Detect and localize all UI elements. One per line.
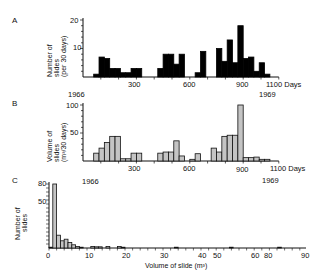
histogram-bar — [233, 135, 238, 161]
b-xtick-1100: 1100 Days — [270, 164, 306, 173]
histogram-bar — [104, 143, 109, 161]
histogram-bar — [195, 73, 200, 77]
histogram-bar — [249, 158, 254, 161]
c-xtick-40: 40 — [198, 251, 206, 260]
c-year-start: 1966 — [82, 177, 99, 186]
histogram-bar — [64, 239, 68, 248]
histogram-bar — [217, 49, 222, 78]
panel-c: 1966 1969 Number of slides 80 50 0 10 20… — [14, 176, 309, 270]
a-xtick-900: 900 — [236, 80, 249, 89]
svg-text:Number of: Number of — [14, 207, 21, 240]
histogram-bar — [131, 68, 136, 77]
histogram-bar — [115, 136, 120, 161]
histogram-bar — [94, 153, 99, 161]
c-xlabel: Volume of slide (m³) — [145, 262, 207, 270]
histogram-bar — [72, 245, 76, 248]
histogram-bar — [98, 247, 102, 248]
b-year-end: 1969 — [259, 90, 276, 99]
b-bars — [94, 105, 270, 161]
histogram-bar — [174, 247, 178, 248]
histogram-bar — [49, 247, 53, 248]
histogram-bar — [243, 158, 248, 161]
a-xtick-1100: 1100 Days — [266, 80, 302, 89]
c-xtick-30: 30 — [160, 251, 168, 260]
histogram-bar — [120, 73, 125, 77]
histogram-bar — [265, 159, 270, 161]
c-ylabel: Number of slides — [14, 207, 28, 240]
histogram-bar — [76, 246, 80, 248]
histogram-bar — [136, 153, 141, 161]
svg-text:(m³/30 days): (m³/30 days) — [60, 123, 68, 162]
histogram-bar — [136, 68, 141, 77]
c-xtick-50: 50 — [213, 251, 221, 260]
panel-label-a: A — [12, 16, 18, 25]
svg-text:(per 30 days): (per 30 days) — [60, 36, 68, 77]
histogram-bar — [179, 156, 184, 161]
histogram-bar — [60, 241, 64, 248]
histogram-bar — [104, 58, 109, 77]
histogram-bar — [238, 26, 243, 77]
histogram-bar — [227, 40, 232, 77]
b-ytick-100: 100 — [66, 101, 79, 110]
histogram-bar — [238, 105, 243, 161]
histogram-bar — [115, 68, 120, 77]
histogram-bar — [99, 57, 104, 77]
svg-text:Volume of: Volume of — [46, 131, 53, 162]
svg-text:slides: slides — [53, 59, 60, 77]
panel-label-b: B — [12, 99, 17, 108]
histogram-bar — [158, 153, 163, 161]
c-xtick-90: 90 — [301, 251, 309, 260]
histogram-bar — [168, 152, 173, 161]
figure: A B C Number of slides (per 30 days) 20 … — [0, 0, 324, 272]
histogram-bar — [68, 242, 72, 248]
b-ylabel: Volume of slides (m³/30 days) — [46, 123, 68, 162]
b-xtick-600: 600 — [183, 164, 196, 173]
b-ytick-50: 50 — [70, 128, 78, 137]
c-xtick-80: 80 — [264, 251, 272, 260]
c-axes — [46, 182, 306, 251]
histogram-bar — [121, 247, 125, 248]
histogram-bar — [57, 235, 61, 248]
panel-a: Number of slides (per 30 days) 20 10 300… — [46, 16, 302, 89]
histogram-bar — [254, 157, 259, 161]
histogram-bar — [163, 54, 168, 77]
histogram-bar — [168, 54, 173, 77]
histogram-bar — [110, 136, 115, 161]
b-xtick-900: 900 — [236, 165, 249, 174]
histogram-bar — [249, 57, 254, 77]
c-xtick-10: 10 — [85, 251, 93, 260]
histogram-bar — [79, 247, 83, 248]
histogram-bar — [120, 159, 125, 161]
c-xtick-0: 0 — [46, 251, 50, 260]
a-xtick-600: 600 — [183, 80, 196, 89]
histogram-bar — [217, 152, 222, 161]
histogram-bar — [163, 152, 168, 161]
a-ytick-10: 10 — [73, 43, 81, 52]
c-xtick-20: 20 — [122, 251, 130, 260]
svg-text:slides: slides — [21, 214, 28, 232]
a-bars — [94, 26, 270, 77]
histogram-bar — [265, 74, 270, 77]
c-bars — [49, 184, 281, 248]
histogram-bar — [229, 247, 233, 248]
histogram-bar — [131, 153, 136, 161]
histogram-bar — [174, 64, 179, 77]
histogram-bar — [95, 247, 99, 248]
histogram-bar — [227, 135, 232, 161]
panel-b: 1966 1969 Volume of slides (m³/30 days) … — [46, 90, 306, 174]
a-ytick-20: 20 — [70, 16, 78, 25]
histogram-bar — [200, 51, 205, 77]
b-year-start: 1966 — [68, 90, 85, 99]
svg-text:slides: slides — [53, 144, 60, 162]
a-xtick-300: 300 — [128, 80, 141, 89]
histogram-bar — [233, 63, 238, 77]
histogram-bar — [106, 246, 110, 248]
histogram-bar — [110, 68, 115, 77]
histogram-bar — [158, 68, 163, 77]
histogram-bar — [179, 54, 184, 77]
svg-text:Number of: Number of — [46, 44, 53, 77]
histogram-bar — [211, 148, 216, 161]
c-ytick-80: 80 — [38, 179, 46, 188]
histogram-bar — [94, 74, 99, 77]
histogram-bar — [190, 159, 195, 161]
